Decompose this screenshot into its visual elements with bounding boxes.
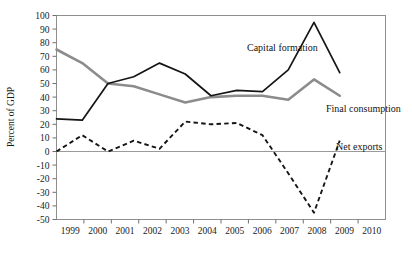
y-tick-label: 90 — [40, 25, 50, 35]
series-label-final-consumption: Final consumption — [326, 103, 401, 114]
y-axis-title: Percent of GDP — [6, 87, 16, 147]
x-tick-label: 2004 — [198, 226, 217, 236]
line-chart: 1009080706050403020100-10-20-30-40-50 19… — [0, 0, 412, 255]
series-label-net-exports: Net exports — [336, 141, 382, 152]
y-tick-label: 0 — [45, 147, 50, 157]
x-axis-tick-labels: 1999200020012002200320042005200620072008… — [61, 226, 382, 236]
y-axis-tick-labels: 1009080706050403020100-10-20-30-40-50 — [35, 11, 50, 225]
x-tick-label: 2002 — [143, 226, 162, 236]
y-tick-label: 40 — [40, 93, 50, 103]
y-tick-label: -20 — [37, 174, 50, 184]
y-tick-label: -30 — [37, 188, 50, 198]
chart-figure: 1009080706050403020100-10-20-30-40-50 19… — [0, 0, 412, 255]
series-label-capital-formation: Capital formation — [247, 42, 318, 53]
y-tick-label: 50 — [40, 79, 50, 89]
y-tick-label: 80 — [40, 38, 50, 48]
y-tick-label: 30 — [40, 106, 50, 116]
y-tick-label: 10 — [40, 133, 50, 143]
x-tick-label: 2010 — [362, 226, 381, 236]
x-tick-label: 2007 — [280, 226, 299, 236]
series-line-capital-formation — [57, 22, 340, 120]
series-line-net-exports — [57, 122, 340, 213]
x-tick-label: 2001 — [116, 226, 135, 236]
x-axis-ticks — [84, 220, 358, 224]
plot-frame — [57, 16, 386, 220]
x-tick-label: 2006 — [253, 226, 272, 236]
y-tick-label: -50 — [37, 215, 50, 225]
y-tick-label: 100 — [35, 11, 50, 21]
x-tick-label: 2005 — [225, 226, 244, 236]
x-tick-label: 2009 — [335, 226, 354, 236]
y-tick-label: -10 — [37, 161, 50, 171]
y-tick-label: -40 — [37, 201, 50, 211]
y-tick-label: 60 — [40, 65, 50, 75]
y-axis-ticks — [53, 16, 57, 220]
y-tick-label: 70 — [40, 52, 50, 62]
x-tick-label: 1999 — [61, 226, 80, 236]
x-tick-label: 2003 — [170, 226, 189, 236]
x-tick-label: 2008 — [307, 226, 326, 236]
y-tick-label: 20 — [40, 120, 50, 130]
x-tick-label: 2000 — [88, 226, 107, 236]
series-line-final-consumption — [57, 50, 340, 103]
